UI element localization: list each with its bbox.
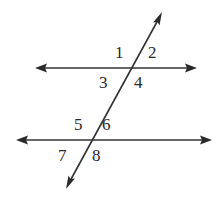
transversal-line <box>66 12 162 189</box>
arrowhead-down-icon <box>66 176 75 190</box>
parallel-line-top <box>35 64 197 73</box>
angle-label-2: 2 <box>148 43 157 62</box>
angle-label-7: 7 <box>58 146 67 165</box>
angle-label-3: 3 <box>99 73 108 92</box>
angle-label-8: 8 <box>92 146 101 165</box>
parallel-lines-transversal-diagram: 1 2 3 4 5 6 7 8 <box>0 0 222 198</box>
parallel-line-bottom <box>16 136 212 145</box>
angle-label-4: 4 <box>134 73 143 92</box>
angle-labels: 1 2 3 4 5 6 7 8 <box>58 43 157 165</box>
angle-label-5: 5 <box>74 115 83 134</box>
angle-label-1: 1 <box>115 43 124 62</box>
angle-label-6: 6 <box>102 115 111 134</box>
arrowhead-up-icon <box>153 12 162 26</box>
